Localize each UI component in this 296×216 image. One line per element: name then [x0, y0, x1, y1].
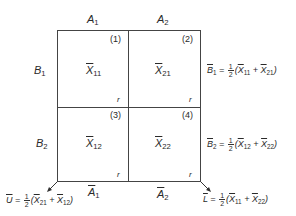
cell-index-2: (2)	[182, 34, 193, 44]
grid-left-line	[57, 30, 58, 182]
cell-mean-x21: X21	[155, 64, 171, 78]
cell-mean-x22: X22	[155, 137, 171, 151]
column-mean-a1: A1	[88, 186, 100, 200]
cell-index-4: (4)	[182, 110, 193, 120]
cell-index-1: (1)	[110, 34, 121, 44]
cell-mean-x12: X12	[86, 137, 102, 151]
cell-index-3: (3)	[110, 110, 121, 120]
row-label-b1: B1	[34, 64, 46, 78]
diagonal-mean-l-equation: L = 12(X11 + X22)	[203, 192, 268, 207]
column-label-a1: A1	[87, 13, 99, 27]
row-mean-b1-equation: B1 = 12(X11 + X21)	[207, 63, 277, 78]
arrow-u-icon	[46, 180, 60, 194]
row-mean-b2-equation: B2 = 12(X12 + X22)	[207, 137, 277, 152]
grid-top-line	[57, 30, 201, 31]
grid-middle-line	[57, 107, 201, 108]
cell-r-4: r	[189, 170, 192, 179]
cell-r-1: r	[117, 95, 120, 104]
grid-bottom-line	[57, 181, 201, 182]
column-mean-a2: A2	[157, 188, 169, 202]
cell-mean-x11: X11	[86, 64, 101, 78]
grid-center-line	[128, 30, 129, 182]
grid-right-line	[200, 30, 201, 182]
diagonal-mean-u-equation: U = 12(X21 + X12)	[6, 193, 73, 208]
row-label-b2: B2	[36, 137, 48, 151]
column-label-a2: A2	[157, 13, 169, 27]
cell-r-2: r	[189, 95, 192, 104]
cell-r-3: r	[117, 170, 120, 179]
